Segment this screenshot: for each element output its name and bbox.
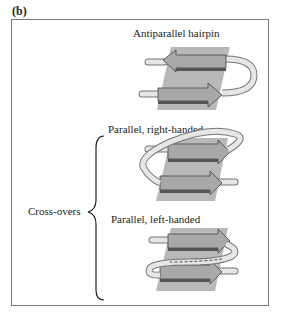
diagram-canvas xyxy=(0,0,282,316)
brace-icon xyxy=(88,136,104,300)
parallel-left-handed-diagram xyxy=(149,228,235,291)
parallel-right-handed-diagram xyxy=(143,131,240,201)
antiparallel-hairpin-diagram xyxy=(142,47,254,110)
